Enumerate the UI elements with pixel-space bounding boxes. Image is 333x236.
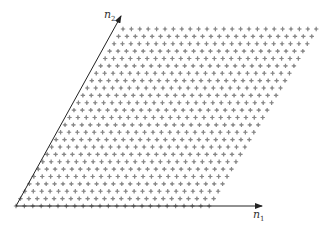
lattice-points bbox=[14, 27, 319, 208]
n2-label-subscript: 2 bbox=[111, 15, 115, 23]
n1-label-subscript: 1 bbox=[260, 215, 264, 223]
n1-axis-label: n1 bbox=[253, 208, 265, 223]
n2-axis bbox=[16, 16, 121, 206]
lattice-diagram bbox=[0, 0, 333, 236]
n2-axis-label: n2 bbox=[104, 8, 116, 23]
